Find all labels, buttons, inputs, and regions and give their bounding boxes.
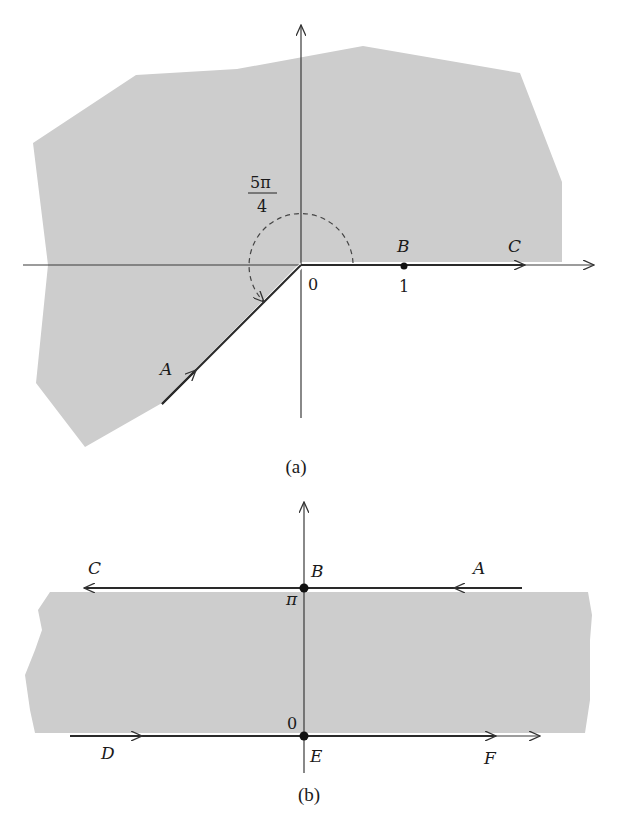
figure-a: B C A 0 1 5π 4 (a) <box>23 25 594 478</box>
label-F: F <box>483 748 497 768</box>
angle-numerator: 5π <box>250 173 271 192</box>
shaded-domain-a <box>33 46 562 447</box>
point-E-b <box>300 732 309 741</box>
conformal-map-figure: B C A 0 1 5π 4 (a) C B A π 0 D E <box>0 0 619 839</box>
caption-a: (a) <box>285 456 306 478</box>
angle-denominator: 4 <box>257 197 267 216</box>
label-B-b: B <box>310 561 324 581</box>
tick-label-1: 1 <box>399 277 409 296</box>
shaded-strip-b <box>25 592 592 733</box>
origin-label-a: 0 <box>308 275 318 294</box>
label-D: D <box>100 743 115 763</box>
point-B-a <box>401 263 408 270</box>
figure-b: C B A π 0 D E F (b) <box>25 502 592 806</box>
label-C-a: C <box>508 236 521 256</box>
point-B-b <box>300 584 309 593</box>
zero-label-b: 0 <box>287 714 297 733</box>
label-A-b: A <box>471 558 485 578</box>
caption-b: (b) <box>298 784 320 806</box>
label-C-b: C <box>88 558 101 578</box>
label-E: E <box>309 746 323 766</box>
label-B-a: B <box>396 236 410 256</box>
pi-label: π <box>285 589 298 609</box>
label-A-a: A <box>158 359 172 379</box>
